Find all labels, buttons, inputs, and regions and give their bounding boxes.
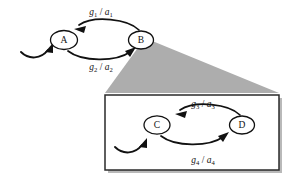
- transition-label-g2-a2: g2 / a2: [89, 62, 112, 73]
- state-node-b-label: B: [138, 35, 144, 45]
- state-diagram-figure: A B g1 / a1 g2 / a2: [0, 0, 285, 178]
- transition-b-to-a-head: [74, 26, 86, 33]
- state-node-a[interactable]: A: [51, 31, 78, 50]
- initial-arrow-a: [21, 43, 53, 57]
- diagram-canvas: A B g1 / a1 g2 / a2: [0, 0, 285, 178]
- transition-label-g2-a2-action-sub: 2: [109, 66, 112, 73]
- transition-label-g1-a1-action-sub: 1: [109, 11, 112, 18]
- state-node-c-label: C: [154, 120, 160, 130]
- transition-label-g2-a2-separator: /: [97, 62, 104, 72]
- transition-label-g1-a1: g1 / a1: [89, 7, 112, 18]
- state-node-b[interactable]: B: [129, 31, 154, 49]
- transition-a-to-b: [68, 47, 136, 59]
- state-node-a-label: A: [61, 35, 68, 45]
- state-node-d-label: D: [239, 120, 246, 130]
- transition-label-g3-a3-separator: /: [199, 99, 206, 109]
- transition-label-g4-a4-separator: /: [199, 155, 206, 165]
- transition-b-to-a: [74, 19, 139, 33]
- state-node-d[interactable]: D: [230, 116, 255, 134]
- transition-label-g1-a1-separator: /: [97, 7, 104, 17]
- state-node-c[interactable]: C: [144, 116, 170, 134]
